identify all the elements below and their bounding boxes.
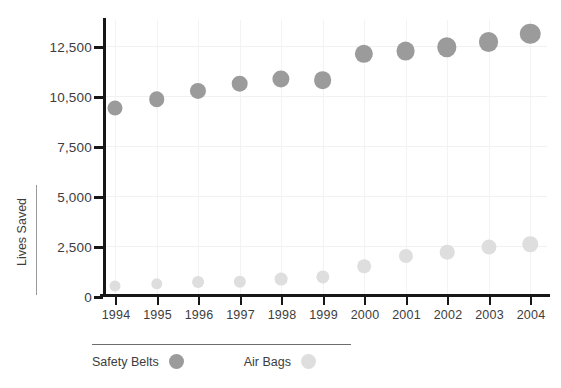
x-axis-tick-label: 1998: [268, 308, 297, 322]
data-point: [108, 100, 123, 115]
gridline-horizontal: [104, 96, 547, 97]
x-axis-tick-label: 2003: [475, 308, 504, 322]
gridline-vertical: [240, 20, 241, 295]
y-axis: 02,5005,0007,50010,50012,500: [103, 18, 106, 297]
data-point: [110, 281, 121, 292]
data-point: [522, 236, 538, 252]
data-point: [231, 75, 248, 92]
data-point: [233, 276, 245, 288]
x-axis-tick: [364, 294, 366, 305]
lives-saved-scatter-chart: Lives Saved 02,5005,0007,50010,50012,500…: [0, 0, 561, 388]
y-axis-tick-label: 5,000: [57, 190, 92, 205]
x-axis-tick-label: 1995: [143, 308, 172, 322]
gridline-vertical: [115, 20, 116, 295]
legend-swatch-air-bags: [301, 354, 316, 369]
data-point: [437, 38, 456, 57]
legend-rule: [92, 344, 351, 345]
x-axis-tick-label: 2001: [392, 308, 421, 322]
y-axis-tick: [94, 196, 103, 199]
x-axis-tick-label: 2002: [434, 308, 463, 322]
gridline-vertical: [530, 20, 531, 295]
data-point: [479, 32, 499, 52]
y-axis-tick-label: 0: [84, 290, 92, 305]
gridline-horizontal: [104, 196, 547, 197]
data-point: [398, 249, 412, 263]
gridline-vertical: [323, 20, 324, 295]
data-point: [357, 259, 371, 273]
x-axis-tick: [406, 294, 408, 305]
x-axis-tick-label: 1997: [226, 308, 255, 322]
data-point: [149, 92, 165, 108]
x-axis-tick-label: 2000: [351, 308, 380, 322]
gridline-vertical: [281, 20, 282, 295]
y-axis-tick-label: 12,500: [50, 40, 93, 55]
y-axis-tick: [94, 246, 103, 249]
legend-label-air-bags: Air Bags: [244, 355, 291, 369]
x-axis-tick-label: 1996: [185, 308, 214, 322]
x-axis-tick: [240, 294, 242, 305]
x-axis-tick: [198, 294, 200, 305]
data-point: [481, 239, 496, 254]
x-axis-tick: [530, 294, 532, 305]
x-axis: 1994199519961997199819992000200120022003…: [100, 294, 550, 297]
y-axis-tick-label: 2,500: [57, 240, 92, 255]
data-point: [272, 70, 289, 87]
data-point: [314, 71, 332, 89]
x-axis-tick: [489, 294, 491, 305]
data-point: [396, 42, 415, 61]
legend-swatch-safety-belts: [169, 354, 184, 369]
data-point: [151, 278, 162, 289]
y-axis-tick: [94, 146, 103, 149]
data-point: [440, 245, 455, 260]
x-axis-tick: [281, 294, 283, 305]
y-axis-title-rule: [36, 185, 37, 295]
gridline-vertical: [198, 20, 199, 295]
x-axis-tick: [115, 294, 117, 305]
x-axis-tick-label: 2004: [517, 308, 546, 322]
y-axis-title: Lives Saved: [15, 182, 29, 282]
gridline-vertical: [157, 20, 158, 295]
x-axis-tick: [447, 294, 449, 305]
legend-label-safety-belts: Safety Belts: [92, 355, 159, 369]
data-point: [316, 270, 329, 283]
data-point: [275, 273, 288, 286]
y-axis-tick: [94, 96, 103, 99]
y-axis-title-group: Lives Saved: [2, 185, 28, 295]
x-axis-tick-label: 1994: [102, 308, 131, 322]
y-axis-tick-label: 10,500: [50, 90, 93, 105]
gridline-horizontal: [104, 146, 547, 147]
y-axis-tick-label: 7,500: [57, 140, 92, 155]
x-axis-tick: [323, 294, 325, 305]
data-point: [520, 23, 541, 44]
x-axis-tick: [157, 294, 159, 305]
data-point: [192, 276, 204, 288]
x-axis-tick-label: 1999: [309, 308, 338, 322]
y-axis-tick: [94, 46, 103, 49]
data-point: [355, 44, 373, 62]
plot-area: [104, 20, 547, 295]
legend-items: Safety Belts Air Bags: [92, 354, 316, 369]
